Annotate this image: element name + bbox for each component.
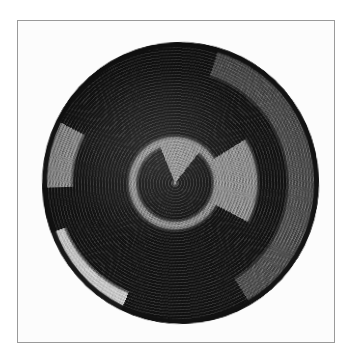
photograph [18, 21, 334, 342]
photo-frame [17, 20, 335, 343]
basket-edge-shadow [37, 37, 324, 328]
page-root: Photograph of a circular coiled basket w… [0, 0, 355, 363]
woven-basket [37, 37, 324, 328]
